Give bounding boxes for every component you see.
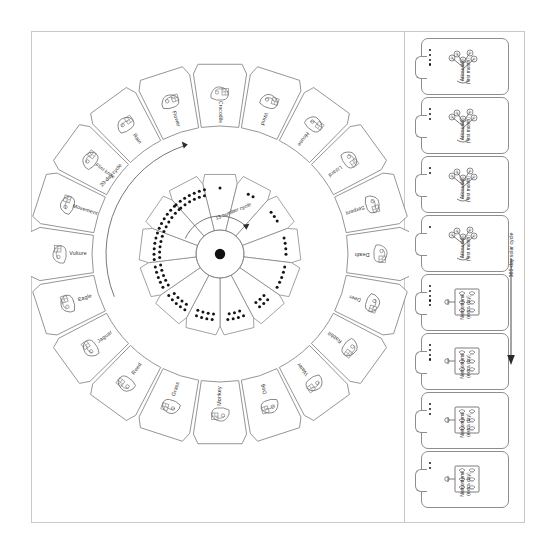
- card-number-dots: [429, 167, 437, 177]
- dot: [429, 118, 431, 120]
- card-number-dots: [429, 108, 437, 122]
- card-name: Atlcaualo (first month): [460, 166, 472, 212]
- dot: [429, 172, 431, 174]
- dot: [429, 358, 431, 360]
- dot: [429, 290, 431, 292]
- month-card[interactable]: Nemontemi (extra day): [421, 274, 509, 331]
- dot: [429, 299, 431, 301]
- card-name: Nemontemi (extra day): [460, 402, 472, 448]
- card-name-wrap: Nemontemi (extra day): [457, 338, 503, 384]
- month-card[interactable]: Nemontemi (extra day): [421, 451, 509, 508]
- card-name-wrap: Atlcaualo (first month): [457, 161, 503, 207]
- card-name-wrap: Atlcaualo (first month): [457, 43, 503, 89]
- card-name: Nemontemi (extra day): [460, 284, 472, 330]
- month-card[interactable]: Atlcaualo (first month): [421, 38, 509, 95]
- number-dots: [219, 187, 222, 190]
- calendar-wheels: [31, 24, 409, 484]
- card-number-dots: [429, 285, 437, 309]
- dot: [429, 349, 431, 351]
- dot: [429, 108, 431, 110]
- day-sign-label: Crocodile: [217, 101, 222, 123]
- day-sign-label: Monkey: [217, 386, 223, 405]
- dot: [429, 54, 431, 56]
- card-notch: [415, 115, 427, 138]
- wheel-hub: [215, 249, 225, 259]
- month-card[interactable]: Nemontemi (extra day): [421, 333, 509, 390]
- card-name-wrap: Nemontemi (extra day): [457, 279, 503, 325]
- card-notch: [415, 56, 427, 79]
- twenty-day-arrowhead: [182, 142, 188, 149]
- month-card[interactable]: Atlcaualo (first month): [421, 97, 509, 154]
- dot: [429, 304, 431, 306]
- dot: [429, 344, 431, 346]
- dot: [429, 413, 431, 415]
- card-name-wrap: Atlcaualo (first month): [457, 102, 503, 148]
- card-number-dots: [429, 462, 437, 472]
- dot: [429, 408, 431, 410]
- solar-cycle-label-wrap: 365-day solar cycle: [476, 252, 546, 272]
- dot: [429, 49, 431, 51]
- dot: [429, 167, 431, 169]
- dot: [429, 295, 431, 297]
- card-name: Atlcaualo (first month): [460, 107, 472, 153]
- dot: [429, 113, 431, 115]
- card-name-wrap: Nemontemi (extra day): [457, 456, 503, 502]
- dot: [429, 285, 431, 287]
- card-notch: [415, 233, 427, 256]
- card-notch: [415, 469, 427, 492]
- dot: [429, 63, 431, 65]
- card-number-dots: [429, 344, 437, 363]
- card-notch: [415, 351, 427, 374]
- card-number-dots: [429, 403, 437, 417]
- day-sign-label: Vulture: [69, 251, 87, 257]
- card-notch: [415, 174, 427, 197]
- card-notch: [415, 410, 427, 433]
- dot: [429, 467, 431, 469]
- card-name: Atlcaualo (first month): [460, 225, 472, 271]
- dot: [429, 226, 431, 228]
- dot: [429, 403, 431, 405]
- day-sign-label: Death: [355, 251, 370, 257]
- figure-canvas: CrocodileWindHouseLizardSerpentDeathDeer…: [0, 0, 557, 553]
- card-name-wrap: Nemontemi (extra day): [457, 397, 503, 443]
- card-number-dots: [429, 49, 437, 68]
- card-name: Atlcaualo (first month): [460, 48, 472, 94]
- card-name: Nemontemi (extra day): [460, 461, 472, 507]
- solar-cycle-label: 365-day solar cycle: [508, 195, 514, 315]
- dot: [429, 59, 431, 61]
- card-notch: [415, 292, 427, 315]
- dot: [429, 462, 431, 464]
- card-number-dots: [429, 226, 437, 231]
- month-card[interactable]: Atlcaualo (first month): [421, 156, 509, 213]
- month-card[interactable]: Nemontemi (extra day): [421, 392, 509, 449]
- card-name: Nemontemi (extra day): [460, 343, 472, 389]
- wheels-svg: [31, 24, 409, 484]
- dot: [429, 354, 431, 356]
